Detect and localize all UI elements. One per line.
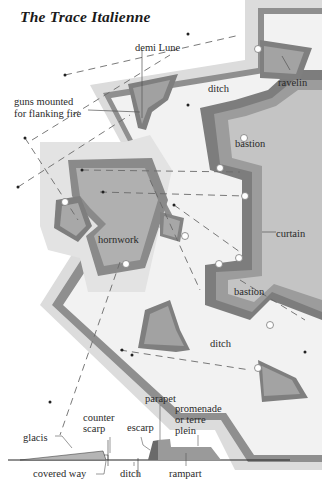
label-hornwork: hornwork xyxy=(98,234,139,245)
glacis-profile xyxy=(20,451,106,460)
label-bastion-bottom: bastion xyxy=(234,286,264,297)
label-rampart: rampart xyxy=(169,468,202,479)
label-glacis: glacis xyxy=(23,432,48,443)
parapet-profile xyxy=(158,439,221,460)
label-counter-2: scarp xyxy=(83,423,105,434)
label-covered-way: covered way xyxy=(33,468,86,479)
label-guns-line1: guns mounted xyxy=(14,96,73,107)
label-escarp: escarp xyxy=(127,422,154,433)
label-guns-line2: for flanking fire xyxy=(14,108,81,119)
label-promenade-3: plein xyxy=(175,425,196,436)
label-ditch-top: ditch xyxy=(208,83,229,94)
label-ravelin: ravelin xyxy=(278,77,307,88)
label-ditch-bottom: ditch xyxy=(210,338,231,349)
label-promenade-2: or terre xyxy=(175,414,206,425)
label-bastion-top: bastion xyxy=(235,138,265,149)
label-promenade-1: promenade xyxy=(175,403,222,414)
label-ditch-section: ditch xyxy=(120,468,141,479)
label-demi-lune: demi Lune xyxy=(135,42,180,53)
fortification-plan xyxy=(0,0,322,490)
label-curtain: curtain xyxy=(276,228,305,239)
label-counter-1: counter xyxy=(83,412,115,423)
label-parapet: parapet xyxy=(145,393,176,404)
